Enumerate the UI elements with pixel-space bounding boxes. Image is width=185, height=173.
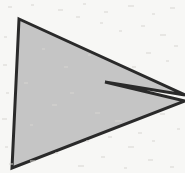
drawing-canvas: [0, 0, 185, 173]
concave-arrow-polygon: [12, 19, 185, 168]
shape-figure: [0, 0, 185, 173]
